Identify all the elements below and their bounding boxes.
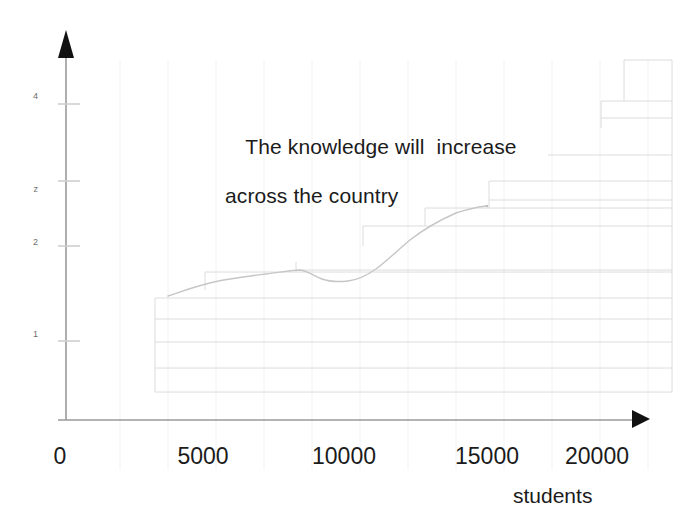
y-tick-label-2: 2 [22,237,38,247]
x-axis-arrow-icon [632,410,650,428]
y-axis-arrow-icon [58,30,74,58]
chart-title: The knowledge will increase across the c… [222,110,517,259]
y-axis-ticks [58,104,80,341]
x-axis-title: students [513,484,592,509]
x-tick-label-0: 0 [54,443,67,470]
chart-title-line-2: across the country [225,184,517,209]
x-tick-label-15000: 15000 [455,443,519,470]
y-tick-label-4: 4 [22,91,38,101]
y-tick-label-3: z [22,184,38,194]
x-tick-label-20000: 20000 [565,443,629,470]
y-tick-label-1: 1 [22,329,38,339]
x-tick-label-5000: 5000 [177,443,228,470]
chart-title-line-1: The knowledge will increase [245,135,516,158]
x-tick-label-10000: 10000 [312,443,376,470]
chart-canvas: The knowledge will increase across the c… [0,0,686,529]
